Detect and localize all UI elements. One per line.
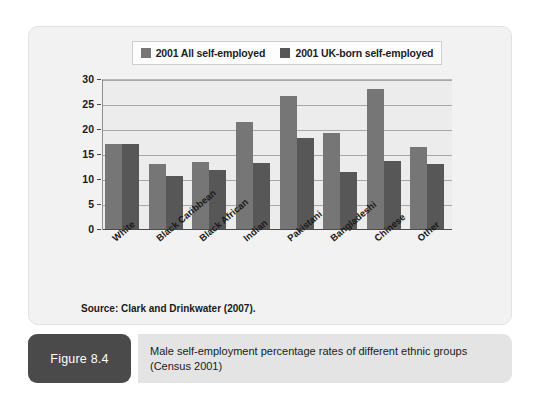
legend-swatch-all-icon — [141, 48, 151, 58]
chart-plot-wrapper: 2001 All self-employed 2001 UK-born self… — [29, 27, 513, 326]
bar-group — [146, 79, 190, 229]
y-tick-label-10: 10 — [70, 173, 94, 185]
figure-number-label: Figure 8.4 — [50, 352, 108, 366]
legend-entry-all: 2001 All self-employed — [141, 47, 266, 59]
chart-legend: 2001 All self-employed 2001 UK-born self… — [132, 41, 442, 65]
legend-label-all: 2001 All self-employed — [156, 47, 266, 59]
y-tick-label-0: 0 — [70, 223, 94, 235]
bar[interactable] — [105, 144, 122, 230]
bar[interactable] — [122, 144, 139, 229]
gridline-0 — [103, 229, 452, 230]
legend-entry-uk-born: 2001 UK-born self-employed — [280, 47, 433, 59]
bar[interactable] — [410, 147, 427, 230]
y-tick-label-5: 5 — [70, 198, 94, 210]
bar[interactable] — [323, 133, 340, 230]
y-tick-mark-10 — [97, 179, 101, 180]
bar[interactable] — [427, 164, 444, 230]
y-tick-label-15: 15 — [70, 148, 94, 160]
legend-label-uk-born: 2001 UK-born self-employed — [295, 47, 433, 59]
figure-panel: 2001 All self-employed 2001 UK-born self… — [28, 26, 512, 325]
figure-caption-text: Male self-employment percentage rates of… — [150, 344, 467, 373]
y-tick-mark-5 — [97, 204, 101, 205]
legend-swatch-uk-born-icon — [280, 48, 290, 58]
bar-group — [277, 79, 321, 229]
bar-group — [407, 79, 451, 229]
source-note: Source: Clark and Drinkwater (2007). — [81, 303, 256, 314]
bar[interactable] — [280, 96, 297, 230]
y-tick-mark-30 — [97, 79, 101, 80]
bars-layer — [102, 79, 451, 229]
y-tick-mark-15 — [97, 154, 101, 155]
bar-group — [102, 79, 146, 229]
figure-number-badge: Figure 8.4 — [28, 334, 131, 383]
bar[interactable] — [149, 164, 166, 229]
figure-caption-bar: Male self-employment percentage rates of… — [138, 334, 512, 383]
y-tick-label-20: 20 — [70, 123, 94, 135]
y-tick-mark-25 — [97, 104, 101, 105]
figure-caption-row: Figure 8.4 Male self-employment percenta… — [28, 334, 512, 383]
y-tick-mark-20 — [97, 129, 101, 130]
y-tick-label-25: 25 — [70, 98, 94, 110]
y-tick-mark-0 — [97, 229, 101, 230]
bar-group — [320, 79, 364, 229]
y-tick-label-30: 30 — [70, 73, 94, 85]
